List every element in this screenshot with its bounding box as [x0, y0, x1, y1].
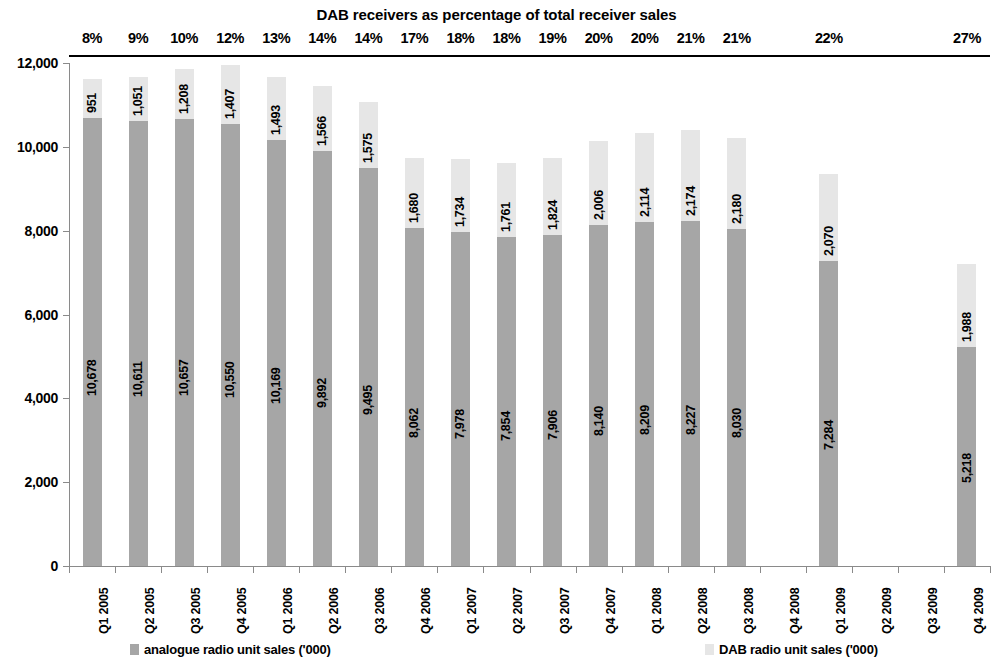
bar-column[interactable]: 1,7347,978 [451, 159, 470, 566]
percentage-row-divider [69, 55, 990, 57]
percentage-annotation-row: 8%9%10%12%13%14%14%17%18%18%19%20%20%21%… [0, 30, 993, 48]
bar-value-label-analogue: 9,892 [315, 379, 329, 409]
bar-column[interactable]: 1,6808,062 [405, 158, 424, 566]
bar-segment-analogue[interactable] [681, 221, 700, 566]
y-axis-label: 0 [0, 558, 58, 574]
bar-segment-analogue[interactable] [451, 232, 470, 566]
bar-segment-analogue[interactable] [819, 261, 838, 566]
percentage-label: 13% [253, 30, 299, 46]
bar-value-label-dab: 1,407 [223, 89, 237, 119]
y-axis-tick [63, 63, 69, 64]
bar-segment-analogue[interactable] [543, 235, 562, 566]
bar-segment-analogue[interactable] [497, 237, 516, 566]
percentage-label: 14% [299, 30, 345, 46]
bar-value-label-analogue: 7,906 [546, 410, 560, 440]
x-axis-tick [207, 567, 208, 573]
percentage-label: 27% [944, 30, 990, 46]
percentage-label: 21% [668, 30, 714, 46]
percentage-label: 14% [345, 30, 391, 46]
bar-value-label-dab: 1,680 [407, 193, 421, 223]
x-axis-tick [760, 567, 761, 573]
bar-column[interactable]: 1,7617,854 [497, 163, 516, 566]
y-axis-label: 10,000 [0, 139, 58, 155]
legend-label: DAB radio unit sales ('000) [719, 642, 878, 657]
percentage-label: 20% [576, 30, 622, 46]
bar-segment-analogue[interactable] [221, 124, 240, 566]
x-axis-label: Q3 2008 [742, 587, 756, 634]
x-axis-label: Q4 2006 [419, 587, 433, 634]
bar-value-label-analogue: 10,169 [269, 368, 283, 404]
bar-value-label-analogue: 7,284 [822, 420, 836, 450]
bar-value-label-dab: 2,070 [822, 226, 836, 256]
bar-segment-analogue[interactable] [83, 118, 102, 566]
bar-value-label-analogue: 8,030 [730, 408, 744, 438]
x-axis-label: Q4 2008 [788, 587, 802, 634]
bar-column[interactable]: 1,9885,218 [957, 264, 976, 566]
bar-column[interactable]: 1,5759,495 [359, 102, 378, 566]
x-axis-tick [437, 567, 438, 573]
x-axis-label: Q3 2009 [926, 587, 940, 634]
y-axis-label: 12,000 [0, 55, 58, 71]
x-axis-tick [714, 567, 715, 573]
bar-value-label-dab: 2,006 [592, 190, 606, 220]
bar-column[interactable]: 1,49310,169 [267, 77, 286, 566]
y-axis-tick [63, 231, 69, 232]
percentage-label: 8% [69, 30, 115, 46]
x-axis-tick [668, 567, 669, 573]
bar-value-label-dab: 2,174 [684, 186, 698, 216]
bar-value-label-dab: 1,493 [269, 105, 283, 135]
bar-value-label-dab: 1,208 [177, 85, 191, 115]
bar-segment-analogue[interactable] [727, 229, 746, 566]
chart-container: DAB receivers as percentage of total rec… [0, 0, 993, 659]
plot-area [69, 63, 991, 567]
bar-column[interactable]: 1,8247,906 [543, 158, 562, 566]
bar-segment-analogue[interactable] [635, 222, 654, 566]
legend-swatch-icon [130, 644, 139, 655]
bar-column[interactable]: 2,1808,030 [727, 138, 746, 566]
bar-column[interactable]: 1,05110,611 [129, 77, 148, 566]
bar-segment-analogue[interactable] [359, 168, 378, 566]
bar-column[interactable]: 1,20810,657 [175, 69, 194, 566]
x-axis-label: Q4 2005 [235, 587, 249, 634]
bar-value-label-analogue: 10,550 [223, 362, 237, 398]
x-axis-label: Q1 2005 [97, 587, 111, 634]
bar-value-label-analogue: 8,140 [592, 407, 606, 437]
bar-segment-analogue[interactable] [129, 121, 148, 566]
bar-column[interactable]: 1,5669,892 [313, 86, 332, 566]
x-axis-tick [483, 567, 484, 573]
bar-segment-analogue[interactable] [589, 225, 608, 566]
bar-value-label-analogue: 5,218 [960, 453, 974, 483]
bar-column[interactable]: 2,1148,209 [635, 133, 654, 566]
bar-column[interactable]: 2,0068,140 [589, 141, 608, 566]
bar-column[interactable]: 1,40710,550 [221, 65, 240, 566]
x-axis-label: Q1 2008 [650, 587, 664, 634]
bar-value-label-analogue: 10,657 [177, 360, 191, 396]
percentage-label: 22% [806, 30, 852, 46]
bar-column[interactable]: 2,1748,227 [681, 130, 700, 566]
y-axis-label: 2,000 [0, 474, 58, 490]
x-axis-tick [852, 567, 853, 573]
legend-item[interactable]: DAB radio unit sales ('000) [705, 642, 878, 657]
percentage-label: 18% [483, 30, 529, 46]
x-axis-tick [69, 567, 70, 573]
x-axis-tick [345, 567, 346, 573]
bar-column[interactable]: 2,0707,284 [819, 174, 838, 566]
y-axis-label: 8,000 [0, 223, 58, 239]
bar-value-label-analogue: 8,209 [638, 405, 652, 435]
bar-segment-analogue[interactable] [267, 140, 286, 566]
bar-segment-analogue[interactable] [175, 119, 194, 566]
x-axis-label: Q3 2006 [373, 587, 387, 634]
x-axis-tick [944, 567, 945, 573]
bar-segment-analogue[interactable] [313, 151, 332, 566]
percentage-label: 12% [207, 30, 253, 46]
legend-label: analogue radio unit sales ('000) [144, 642, 331, 657]
legend-item[interactable]: analogue radio unit sales ('000) [130, 642, 331, 657]
bar-segment-analogue[interactable] [405, 228, 424, 566]
bar-column[interactable]: 95110,678 [83, 79, 102, 566]
x-axis-label: Q1 2009 [834, 587, 848, 634]
y-axis-label: 4,000 [0, 390, 58, 406]
x-axis-tick [299, 567, 300, 573]
percentage-label: 19% [530, 30, 576, 46]
percentage-label: 9% [115, 30, 161, 46]
bar-value-label-analogue: 7,978 [453, 409, 467, 439]
